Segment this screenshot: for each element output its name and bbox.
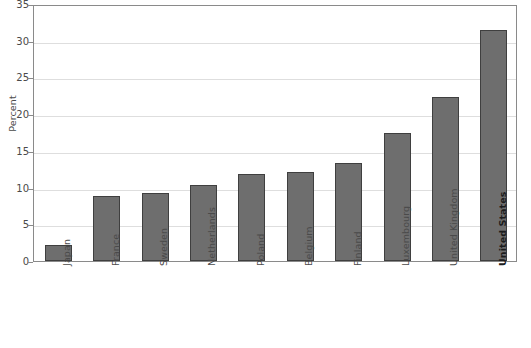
y-axis-tick-label: 35: [5, 0, 29, 10]
y-axis-tick-label: 30: [5, 37, 29, 47]
x-axis-category-label: Finland: [352, 231, 363, 266]
y-axis-tick-label: 0: [5, 257, 29, 267]
x-axis-category-label: Netherlands: [206, 207, 217, 266]
y-axis-tick-label: 10: [5, 184, 29, 194]
x-axis-category-label: Sweden: [158, 228, 169, 266]
x-axis-category-label: France: [110, 234, 121, 266]
x-axis-category-label: United States: [497, 191, 508, 266]
y-axis-tick-label: 25: [5, 73, 29, 83]
y-axis-tick-mark: [28, 152, 33, 153]
y-axis-tick-label: 20: [5, 110, 29, 120]
x-axis-category-labels: JapanFranceSwedenNetherlandsPolandBelgiu…: [33, 263, 517, 348]
y-axis-tick-mark: [28, 189, 33, 190]
y-axis-tick-marks: [33, 5, 517, 262]
y-axis-tick-label: 5: [5, 220, 29, 230]
y-axis-tick-mark: [28, 5, 33, 6]
x-axis-category-label: Belgium: [303, 226, 314, 266]
y-axis-tick-mark: [28, 78, 33, 79]
y-axis-tick-mark: [28, 115, 33, 116]
x-axis-category-label: United Kingdom: [448, 188, 459, 266]
y-axis-tick-label: 15: [5, 147, 29, 157]
x-axis-category-label: Poland: [255, 234, 266, 266]
x-axis-category-label: Luxembourg: [400, 206, 411, 266]
bar-chart: Percent 05101520253035 JapanFranceSweden…: [0, 0, 531, 348]
y-axis-tick-mark: [28, 42, 33, 43]
y-axis-tick-labels: 05101520253035: [0, 0, 29, 348]
y-axis-tick-mark: [28, 225, 33, 226]
x-axis-category-label: Japan: [61, 239, 72, 266]
